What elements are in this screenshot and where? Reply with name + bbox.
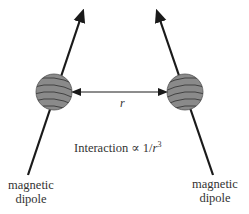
interaction-prefix: Interaction ∝ 1/: [74, 141, 153, 155]
left-dipole-label-line1: magnetic: [6, 178, 56, 192]
right-dipole-label-line1: magnetic: [190, 177, 240, 191]
right-dipole-label: magnetic dipole: [190, 177, 240, 205]
interaction-exponent: 3: [157, 140, 161, 149]
left-dipole-label-line2: dipole: [6, 192, 56, 206]
interaction-formula: Interaction ∝ 1/r3: [74, 140, 161, 156]
right-dipole-sphere: [165, 74, 205, 112]
right-dipole-label-line2: dipole: [190, 191, 240, 205]
separation-label: r: [120, 96, 125, 111]
left-dipole-label: magnetic dipole: [6, 178, 56, 206]
left-dipole-sphere: [34, 74, 74, 112]
